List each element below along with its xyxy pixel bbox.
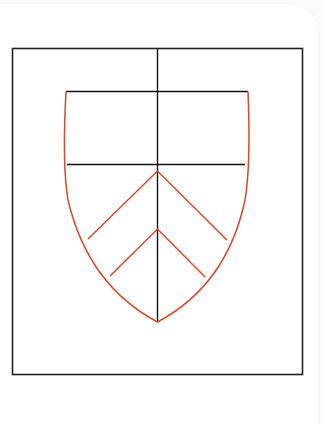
- shield-outline: [64, 92, 249, 323]
